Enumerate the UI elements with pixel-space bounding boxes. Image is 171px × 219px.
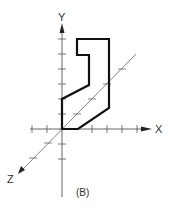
x-axis (30, 125, 152, 133)
axis-diagram: Y X Z (B) (0, 0, 171, 219)
x-arrowhead-icon (141, 127, 152, 132)
z-axis (18, 54, 136, 174)
z-axis-label: Z (7, 173, 14, 185)
z-arrowhead-icon (18, 166, 25, 174)
figure-caption: (B) (76, 187, 89, 198)
x-axis-label: X (155, 123, 163, 135)
y-arrowhead-icon (60, 23, 65, 33)
profile-outline (62, 39, 109, 129)
y-axis-label: Y (58, 11, 66, 23)
